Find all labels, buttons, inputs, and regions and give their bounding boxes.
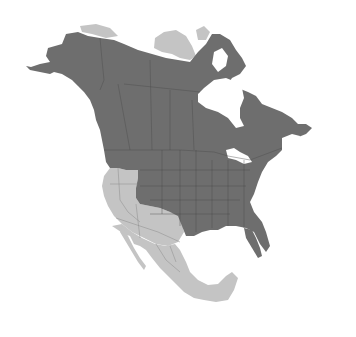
arctic-islands-region xyxy=(154,30,196,60)
arctic-island-small xyxy=(196,26,210,40)
range-map xyxy=(0,0,356,337)
